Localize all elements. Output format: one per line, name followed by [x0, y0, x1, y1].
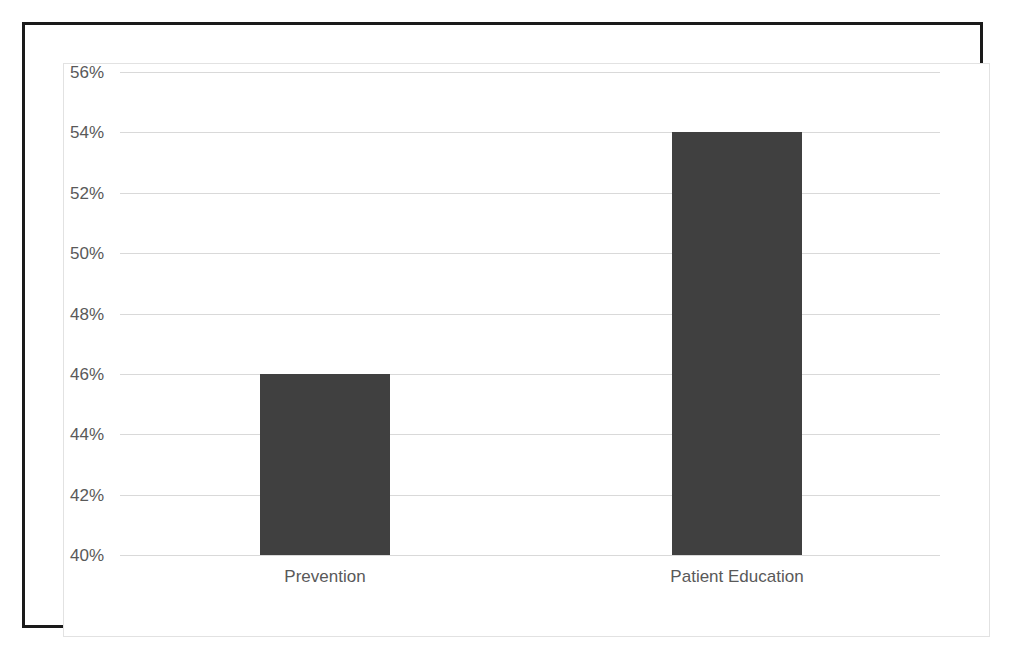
gridline [120, 132, 940, 133]
x-axis-category-label: Prevention [200, 568, 450, 585]
chart-plot-area [120, 72, 940, 555]
y-axis-tick-label: 56% [70, 64, 104, 81]
gridline [120, 374, 940, 375]
y-axis-tick-label: 54% [70, 124, 104, 141]
gridline [120, 555, 940, 556]
gridline [120, 253, 940, 254]
bar-patient-education[interactable] [672, 132, 802, 555]
bar-prevention[interactable] [260, 374, 390, 555]
gridline [120, 193, 940, 194]
gridline [120, 434, 940, 435]
y-axis-tick-label: 40% [70, 547, 104, 564]
y-axis-tick-label: 42% [70, 487, 104, 504]
y-axis-tick-label: 48% [70, 306, 104, 323]
gridline [120, 495, 940, 496]
x-axis-category-label: Patient Education [612, 568, 862, 585]
gridline [120, 72, 940, 73]
y-axis-tick-label: 46% [70, 366, 104, 383]
y-axis-tick-labels: 56%54%52%50%48%46%44%42%40% [48, 72, 104, 555]
gridline [120, 314, 940, 315]
y-axis-tick-label: 44% [70, 426, 104, 443]
y-axis-tick-label: 52% [70, 185, 104, 202]
y-axis-tick-label: 50% [70, 245, 104, 262]
